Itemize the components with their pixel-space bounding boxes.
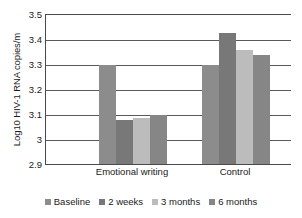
y-axis-tick-labels: 2.933.13.23.33.43.5	[16, 0, 42, 178]
legend-swatch-icon	[152, 199, 158, 205]
x-axis-category-label: Emotional writing	[96, 166, 168, 177]
bar[interactable]	[133, 118, 150, 166]
bar[interactable]	[202, 65, 219, 165]
legend-item[interactable]: 6 months	[209, 196, 257, 207]
y-axis-tick-label: 3.3	[16, 59, 42, 70]
bar[interactable]	[253, 55, 270, 165]
bar[interactable]	[236, 50, 253, 165]
x-axis-category-labels: Emotional writingControl	[45, 166, 290, 182]
bar[interactable]	[150, 115, 167, 165]
bar[interactable]	[219, 33, 236, 166]
legend-label: Baseline	[54, 196, 90, 207]
legend-label: 3 months	[161, 196, 200, 207]
legend-swatch-icon	[45, 199, 51, 205]
y-axis-tick-label: 3.4	[16, 34, 42, 45]
y-axis-tick-label: 3.5	[16, 9, 42, 20]
legend-item[interactable]: 3 months	[152, 196, 200, 207]
bar-group	[202, 15, 270, 165]
y-axis-tick-label: 3.1	[16, 109, 42, 120]
y-axis-tick-label: 2.9	[16, 159, 42, 170]
bar-group	[99, 15, 167, 165]
x-axis-line	[46, 164, 291, 165]
y-axis-tick-label: 3	[16, 134, 42, 145]
legend-swatch-icon	[209, 199, 215, 205]
bars-layer	[46, 15, 291, 165]
x-axis-category-label: Control	[220, 166, 251, 177]
legend-swatch-icon	[99, 199, 105, 205]
bar[interactable]	[116, 120, 133, 165]
legend-label: 6 months	[218, 196, 257, 207]
bar[interactable]	[99, 65, 116, 165]
legend-item[interactable]: Baseline	[45, 196, 90, 207]
chart-legend: Baseline2 weeks3 months6 months	[0, 196, 302, 207]
plot-area	[45, 14, 291, 165]
legend-label: 2 weeks	[108, 196, 143, 207]
y-axis-tick-label: 3.2	[16, 84, 42, 95]
bar-chart-figure: Log10 HIV-1 RNA copies/m 2.933.13.23.33.…	[0, 0, 302, 218]
legend-item[interactable]: 2 weeks	[99, 196, 143, 207]
